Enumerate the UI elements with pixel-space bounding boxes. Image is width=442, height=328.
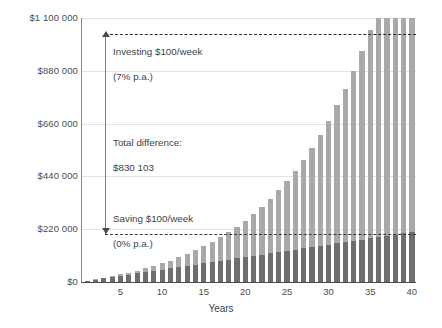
bar-segment-investing [276, 190, 281, 252]
x-tick-label-20: 20 [232, 286, 258, 297]
bar-column [300, 18, 308, 282]
stacked-bar [409, 18, 414, 282]
bar-segment-saving [284, 251, 289, 282]
stacked-bar [210, 242, 215, 282]
stacked-bar [243, 221, 248, 282]
stacked-bar [201, 246, 206, 282]
annotation-investing: Investing $100/week (7% p.a.) [113, 33, 202, 83]
bar-segment-saving [226, 260, 231, 282]
stacked-bar [393, 18, 398, 282]
bar-segment-saving [409, 232, 414, 282]
bar-segment-investing [284, 181, 289, 251]
stacked-bar [368, 30, 373, 282]
bar-column [241, 18, 249, 282]
x-tick-label-15: 15 [191, 286, 217, 297]
stacked-bar [218, 237, 223, 282]
bar-segment-investing [326, 121, 331, 245]
bar-segment-investing [226, 232, 231, 259]
bar-column [383, 18, 391, 282]
stacked-bar [160, 263, 165, 282]
y-tick-label-440000: $440 000 [4, 170, 78, 181]
bar-segment-saving [359, 240, 364, 282]
stacked-bar [284, 181, 289, 282]
bar-segment-saving [368, 238, 373, 282]
y-tick-label-1100000: $1 100 000 [4, 12, 78, 23]
bar-segment-saving [376, 237, 381, 282]
x-tick-label-35: 35 [357, 286, 383, 297]
stacked-bar [268, 199, 273, 282]
stacked-bar [143, 268, 148, 282]
stacked-bar [309, 148, 314, 282]
bar-segment-saving [326, 245, 331, 282]
annotation-difference-line2: $830 103 [113, 162, 154, 173]
annotation-investing-line2: (7% p.a.) [113, 71, 153, 82]
bar-segment-saving [351, 241, 356, 282]
bar-segment-saving [151, 271, 156, 282]
bar-column [374, 18, 382, 282]
bar-column [233, 18, 241, 282]
bar-segment-investing [368, 30, 373, 238]
bar-segment-saving [259, 255, 264, 282]
bar-segment-saving [234, 258, 239, 282]
bar-column [283, 18, 291, 282]
stacked-bar [251, 214, 256, 282]
x-axis-title: Years [0, 303, 442, 314]
bar-segment-investing [318, 135, 323, 246]
bar-column [399, 18, 407, 282]
y-tick-label-0: $0 [4, 276, 78, 287]
y-axis-line [81, 18, 82, 282]
bar-segment-saving [218, 261, 223, 282]
stacked-bar [168, 261, 173, 282]
bar-segment-saving [343, 242, 348, 282]
bar-segment-investing [359, 51, 364, 239]
stacked-bar [401, 18, 406, 282]
bar-segment-saving [334, 243, 339, 282]
bar-segment-investing [234, 227, 239, 259]
bar-segment-saving [393, 235, 398, 282]
bar-segment-saving [160, 270, 165, 282]
bar-segment-saving [251, 256, 256, 282]
bar-column [350, 18, 358, 282]
bar-column [91, 18, 99, 282]
bar-segment-investing [384, 18, 389, 236]
x-tick-label-10: 10 [149, 286, 175, 297]
bar-segment-saving [176, 267, 181, 282]
bar-segment-investing [309, 148, 314, 247]
investment-growth-chart: $1 100 000 $880 000 $660 000 $440 000 $2… [0, 0, 442, 328]
bar-segment-investing [193, 250, 198, 264]
stacked-bar [193, 250, 198, 282]
bar-segment-investing [376, 18, 381, 237]
bar-segment-investing [293, 171, 298, 250]
bar-column [341, 18, 349, 282]
bar-segment-investing [243, 221, 248, 257]
annotation-saving-line1: Saving $100/week [113, 213, 193, 224]
stacked-bar [351, 71, 356, 282]
bar-segment-investing [201, 246, 206, 263]
x-tick-label-25: 25 [274, 286, 300, 297]
bar-segment-saving [301, 248, 306, 282]
bar-segment-saving [243, 257, 248, 282]
bar-segment-saving [193, 265, 198, 282]
bar-segment-saving [185, 266, 190, 282]
bar-column [83, 18, 91, 282]
y-axis-tick-labels: $1 100 000 $880 000 $660 000 $440 000 $2… [0, 0, 78, 328]
bar-segment-investing [334, 105, 339, 243]
bar-segment-saving [309, 247, 314, 282]
bar-column [250, 18, 258, 282]
bar-segment-saving [293, 250, 298, 282]
bar-segment-investing [409, 18, 414, 232]
bar-column [100, 18, 108, 282]
annotation-investing-line1: Investing $100/week [113, 46, 202, 57]
y-tick-label-220000: $220 000 [4, 223, 78, 234]
y-tick-label-660000: $660 000 [4, 118, 78, 129]
annotation-difference-line1: Total difference: [113, 137, 182, 148]
stacked-bar [376, 18, 381, 282]
bar-segment-saving [210, 262, 215, 282]
bar-segment-saving [276, 252, 281, 282]
stacked-bar [118, 274, 123, 282]
bar-column [308, 18, 316, 282]
bar-column [208, 18, 216, 282]
bar-segment-investing [301, 160, 306, 248]
y-tick-label-880000: $880 000 [4, 65, 78, 76]
bar-segment-investing [343, 89, 348, 242]
